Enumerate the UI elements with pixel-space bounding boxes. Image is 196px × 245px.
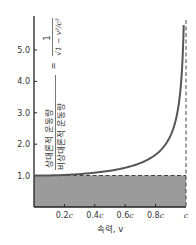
y-axis-label: 상대론적 운동량 비상대론적 운동량 = 1 √1 − v²/c²	[42, 18, 66, 170]
x-axis-label: 속력, v	[97, 224, 123, 234]
y-tick-label: 1.0	[17, 172, 30, 181]
x-tick-label: 0.4c	[86, 211, 104, 220]
x-tick-label: 0.8c	[147, 211, 165, 220]
y-label-numerator: 상대론적 운동량	[44, 109, 54, 168]
y-label-equals: =	[48, 62, 58, 69]
x-tick-label: c	[184, 211, 189, 220]
x-tick-label: 0.6c	[117, 211, 135, 220]
y-label-formula-denominator: √1 − v²/c²	[54, 18, 63, 56]
x-tick-label: 0.2c	[56, 211, 74, 220]
y-tick-label: 4.0	[17, 77, 30, 86]
y-tick-label: 3.0	[17, 109, 30, 118]
y-label-formula-numerator: 1	[42, 35, 52, 40]
y-label-denominator: 비상대론적 운동량	[56, 103, 66, 170]
momentum-ratio-chart: 1.02.03.04.05.0 0.2c0.4c0.6c0.8cc 상대론적 운…	[0, 0, 196, 245]
nonrelativistic-shaded-region	[34, 176, 186, 208]
y-tick-label: 2.0	[17, 140, 30, 149]
y-tick-label: 5.0	[17, 46, 30, 55]
